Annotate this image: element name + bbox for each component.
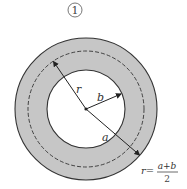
annulus-diagram: 1 r b a r= a+b 2	[0, 0, 187, 189]
label-b: b	[97, 91, 104, 104]
label-a: a	[102, 131, 109, 144]
formula-denominator: 2	[164, 174, 170, 184]
label-r: r	[76, 83, 82, 96]
formula-lhs: r=	[141, 165, 154, 176]
figure-number: 1	[72, 4, 79, 17]
formula-numerator: a+b	[158, 161, 177, 171]
